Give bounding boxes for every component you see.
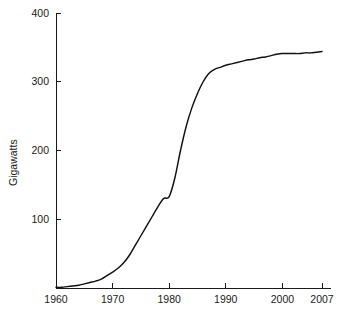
y-tick-label: 300 — [31, 75, 49, 87]
x-tick-label: 1990 — [214, 293, 238, 305]
y-tick-label: 400 — [31, 7, 49, 19]
line-chart-canvas: 100200300400 196019701980199020002007 Gi… — [0, 0, 344, 313]
x-tick-label: 1960 — [44, 293, 68, 305]
chart-figure: 100200300400 196019701980199020002007 Gi… — [0, 0, 344, 313]
data-series-group — [56, 52, 322, 288]
y-tick-label: 100 — [31, 213, 49, 225]
y-axis-ticks — [56, 13, 61, 219]
y-axis-label: Gigawatts — [7, 139, 19, 186]
x-tick-label: 1980 — [158, 293, 182, 305]
x-tick-label: 2000 — [271, 293, 295, 305]
x-tick-label: 2007 — [310, 293, 334, 305]
x-axis-tick-labels: 196019701980199020002007 — [44, 293, 334, 305]
x-tick-label: 1970 — [101, 293, 125, 305]
y-tick-label: 200 — [31, 144, 49, 156]
x-axis-ticks — [56, 283, 322, 288]
data-line-1 — [56, 52, 322, 288]
y-axis-tick-labels: 100200300400 — [31, 7, 49, 225]
